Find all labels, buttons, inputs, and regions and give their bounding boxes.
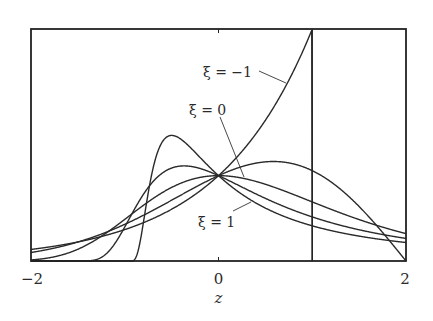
x-tick-label: 2 [400,270,410,288]
x-axis-label: z [214,289,223,307]
pointer-xi-0 [220,117,244,177]
x-tick-label: −2 [21,270,43,288]
series-line-xi-1 [31,30,312,261]
label-xi-0: ξ = 0 [189,102,226,118]
label-xi-1: ξ = 1 [198,214,235,230]
pointer-xi-1 [233,202,251,211]
x-tick-label: 0 [214,270,224,288]
label-xi-minus-1: ξ = −1 [203,64,252,80]
pointer-xi-minus-1 [259,71,286,83]
gev-density-chart: −2 0 2 z ξ = −1 ξ = 0 ξ = 1 [0,0,433,321]
